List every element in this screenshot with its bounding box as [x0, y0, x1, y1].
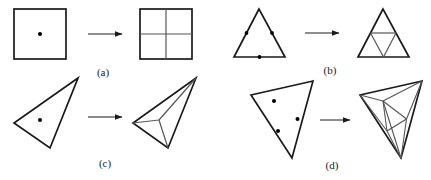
- panel-caption-c: (c): [99, 157, 112, 170]
- triangulation-figure: (a) (b): [0, 0, 431, 180]
- interior-point-marker: [38, 118, 42, 122]
- figure-background: [0, 0, 431, 180]
- edge-point-marker: [296, 117, 300, 121]
- panel-caption-a: (a): [97, 66, 110, 79]
- panel-caption-b: (b): [324, 64, 337, 77]
- interior-point-marker: [272, 99, 276, 103]
- interior-point-marker: [276, 129, 280, 133]
- interior-point-marker: [38, 32, 42, 36]
- edge-midpoint-marker: [270, 31, 274, 35]
- figure-root: (a) (b): [0, 0, 431, 180]
- edge-midpoint-marker: [258, 55, 262, 59]
- edge-midpoint-marker: [245, 31, 249, 35]
- panel-caption-d: (d): [326, 159, 339, 172]
